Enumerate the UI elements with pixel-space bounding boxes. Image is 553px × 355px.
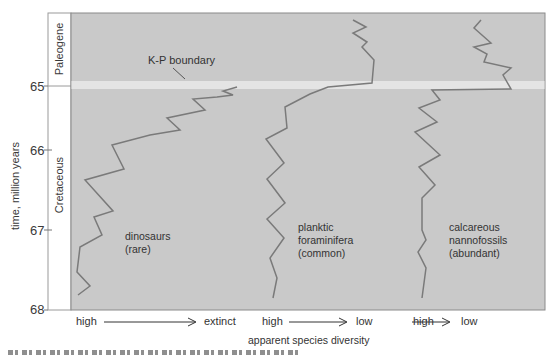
dino-extinct-label: extinct xyxy=(204,315,236,327)
period-paleogene: Paleogene xyxy=(53,9,67,89)
plot-area xyxy=(71,13,545,310)
foram-high-label: high xyxy=(262,315,283,327)
dino-high-label: high xyxy=(76,315,97,327)
foram-low-label: low xyxy=(356,315,373,327)
x-axis-title: apparent species diversity xyxy=(248,334,369,346)
tick-label-67: 67 xyxy=(30,223,44,238)
tick-label-65: 65 xyxy=(30,79,44,94)
diagram-canvas xyxy=(0,0,553,355)
period-cretaceous: Cretaceous xyxy=(53,145,67,225)
nanno-high-label: high xyxy=(413,315,434,327)
dinosaurs-label: dinosaurs (rare) xyxy=(125,230,171,256)
nannofossils-label: calcareous nannofossils (abundant) xyxy=(449,221,507,260)
foraminifera-label: planktic foraminifera (common) xyxy=(298,221,353,260)
kp-boundary-band xyxy=(72,81,545,89)
tick-label-68: 68 xyxy=(30,302,44,317)
y-axis-title: time, million years xyxy=(9,142,21,230)
kp-boundary-label: K-P boundary xyxy=(148,54,215,66)
tick-label-66: 66 xyxy=(30,143,44,158)
nanno-low-label: low xyxy=(461,315,478,327)
caption-fragment xyxy=(8,350,298,355)
